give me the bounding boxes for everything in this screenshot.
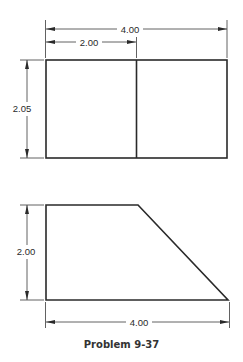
arrowhead-icon [25,205,29,214]
front-view-outline [46,205,228,300]
height-label: 2.05 [13,103,32,114]
arrowhead-icon [220,320,229,324]
front-view: 2.00 4.00 [17,205,230,328]
arrowhead-icon [25,60,29,69]
arrowhead-icon [46,27,55,31]
overall-width-label: 4.00 [121,24,140,35]
front-width-label: 4.00 [130,317,149,328]
top-view: 4.00 2.00 2.05 [13,20,227,158]
technical-drawing: 4.00 2.00 2.05 2.00 [0,0,243,362]
arrowhead-icon [127,40,136,44]
arrowhead-icon [46,40,55,44]
arrowhead-icon [218,27,227,31]
partial-width-label: 2.00 [80,37,99,48]
arrowhead-icon [25,291,29,300]
arrowhead-icon [25,149,29,158]
front-height-label: 2.00 [17,246,36,257]
arrowhead-icon [46,320,55,324]
figure-caption: Problem 9-37 [0,339,243,350]
